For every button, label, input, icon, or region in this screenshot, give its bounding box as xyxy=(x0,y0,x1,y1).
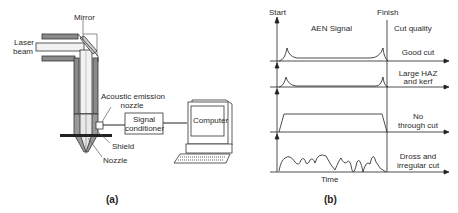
shield-label: Shield xyxy=(112,142,134,151)
nozzle-label: Nozzle xyxy=(103,156,127,165)
signal-conditioner-label-line1: Signal xyxy=(125,115,163,124)
ae-nozzle-label-line1: Acoustic emission xyxy=(101,92,165,101)
ae-sensor xyxy=(96,122,103,129)
shield-plate xyxy=(60,134,112,137)
laser-beam-label-line2: beam xyxy=(13,47,33,56)
mirror-label: Mirror xyxy=(74,13,95,22)
aen-signal-title: AEN Signal xyxy=(311,24,352,33)
signal-conditioner-label-line2: conditioner xyxy=(125,124,163,133)
trace-label-large-haz-2: and kerf xyxy=(388,77,448,86)
computer-label: Computer xyxy=(193,116,228,125)
diagram-canvas xyxy=(0,0,458,213)
laser-beam-label-line1: Laser xyxy=(14,38,34,47)
trace-label-no-through-1: No xyxy=(388,112,448,121)
ae-nozzle-label-line2: nozzle xyxy=(101,101,163,110)
computer-icon xyxy=(174,100,232,163)
panel-b-caption: (b) xyxy=(324,194,337,205)
trace-label-good-cut: Good cut xyxy=(388,48,448,57)
panel-a-caption: (a) xyxy=(106,194,118,205)
start-label: Start xyxy=(269,8,286,17)
time-axis-label: Time xyxy=(321,175,338,184)
trace-label-dross-2: irregular cut xyxy=(388,161,448,170)
aen-signal-chart xyxy=(270,17,449,174)
cut-quality-title: Cut quality xyxy=(394,24,432,33)
finish-label: Finish xyxy=(377,8,398,17)
trace-label-dross-1: Dross and xyxy=(388,152,448,161)
trace-label-no-through-2: through cut xyxy=(388,121,448,130)
